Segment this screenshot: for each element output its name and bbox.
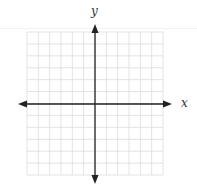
axes: [18, 24, 172, 184]
x-axis-left-arrow-icon: [18, 101, 27, 108]
x-axis-right-arrow-icon: [163, 101, 172, 108]
y-axis-up-arrow-icon: [92, 24, 99, 33]
coordinate-plane: [0, 0, 197, 190]
y-axis-down-arrow-icon: [92, 175, 99, 184]
y-axis-label: y: [91, 5, 98, 17]
x-axis-label: x: [181, 97, 188, 109]
